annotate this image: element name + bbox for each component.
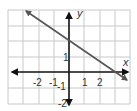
y-tick-label: -1 (57, 81, 66, 92)
x-tick-label: 1 (82, 77, 88, 88)
x-tick-label: 2 (97, 77, 103, 88)
coordinate-plane: y x -2 -1 -1 1 2 1 -2 (0, 0, 137, 111)
x-axis-label: x (122, 56, 129, 68)
y-axis-label: y (76, 7, 84, 19)
y-tick-label: -2 (58, 98, 67, 109)
y-tick-label: 1 (63, 52, 69, 63)
x-tick-label: -2 (33, 77, 42, 88)
plotted-line (26, 11, 127, 80)
